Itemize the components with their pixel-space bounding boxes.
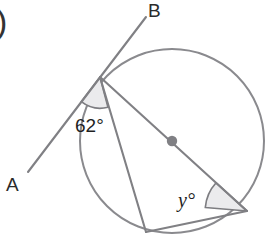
chord-tq [100,77,146,232]
geometry-figure: B A 62° y° ) [0,0,271,241]
angle-arc-y [205,183,247,211]
tangent-line-ab [28,17,146,172]
question-part-marker: ) [0,2,7,40]
angle-label-62: 62° [75,115,104,136]
label-point-a: A [6,174,19,195]
label-point-b: B [148,0,161,21]
circle-center-dot [167,136,177,146]
angle-label-y: y° [176,189,195,212]
geometry-canvas: B A 62° y° ) [0,0,271,241]
